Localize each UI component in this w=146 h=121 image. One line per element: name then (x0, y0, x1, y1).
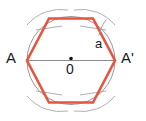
side-length-label-a: a (95, 37, 102, 50)
vertex-label-A: A (6, 50, 16, 65)
center-point-dot (69, 57, 73, 61)
arc-cross-bottom-right (80, 91, 106, 95)
arc-cross-top-left (36, 26, 62, 30)
arc-cross-bottom-left (36, 91, 62, 95)
center-label-O: 0 (66, 62, 74, 76)
vertex-label-A-prime: A' (121, 50, 134, 65)
